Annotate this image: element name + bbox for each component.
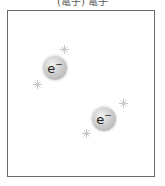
electron-1: e−: [43, 56, 67, 80]
electron-2-charge: −: [104, 110, 112, 120]
sparkle-icon: [33, 80, 42, 89]
electron-2: e−: [92, 107, 116, 131]
sparkle-icon: [82, 129, 91, 138]
electron-1-charge: −: [55, 59, 63, 69]
diagram-frame: [7, 10, 155, 177]
sparkle-icon: [60, 45, 69, 54]
diagram-caption: (電子) 電子: [0, 0, 165, 8]
sparkle-icon: [119, 99, 128, 108]
